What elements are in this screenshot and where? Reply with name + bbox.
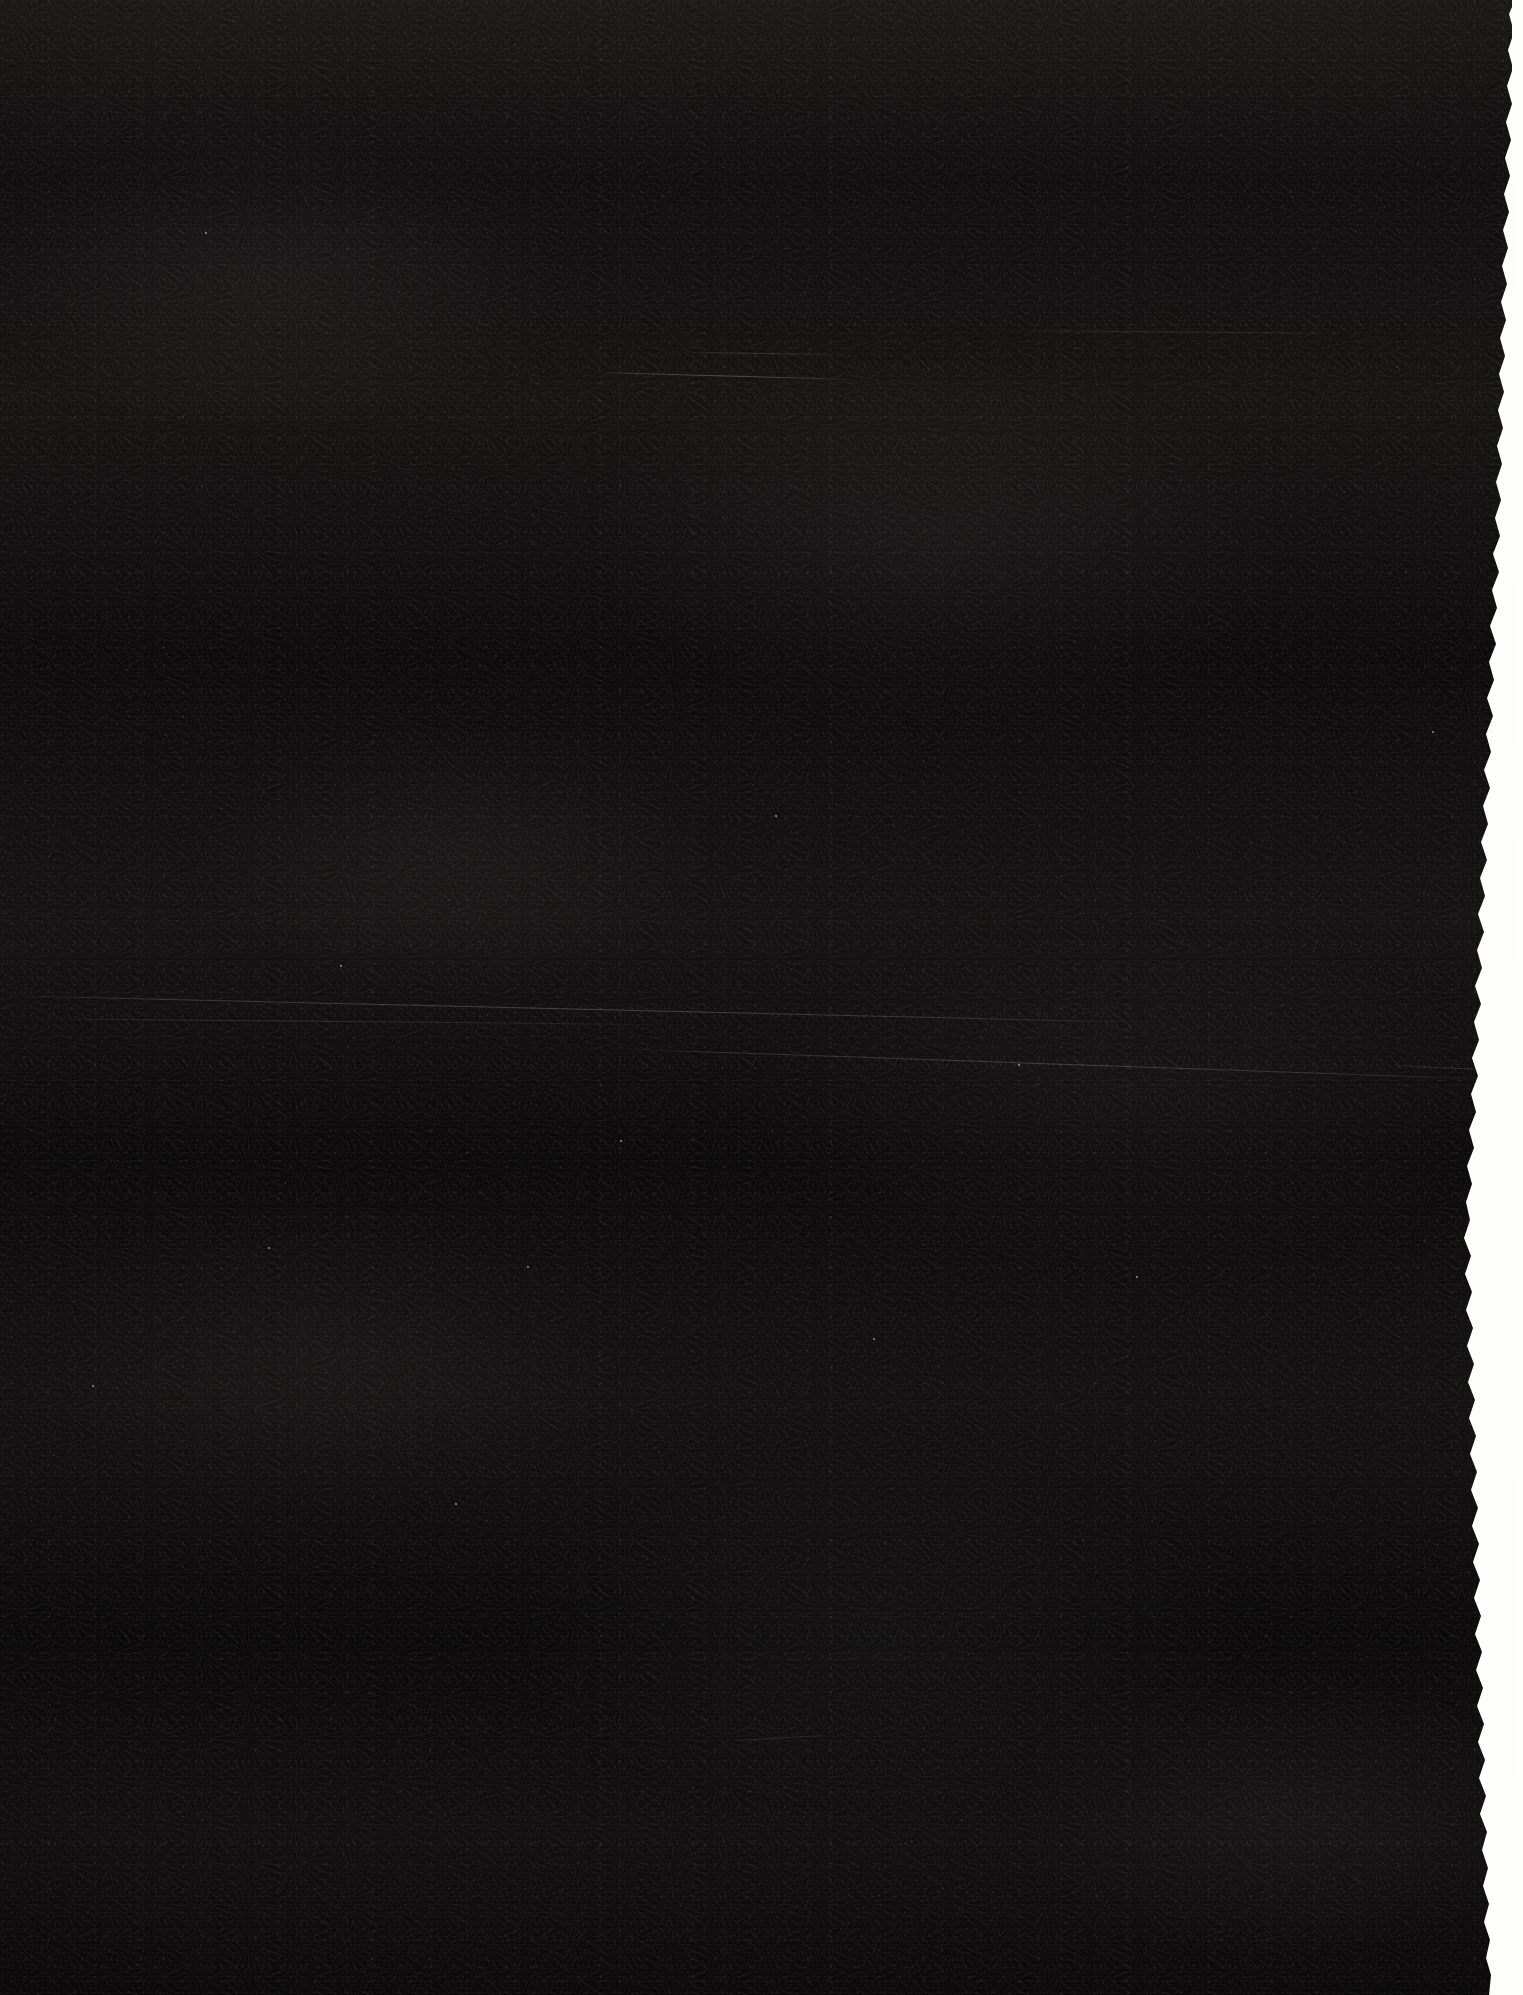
document-page (0, 0, 1512, 1995)
vignette (0, 0, 1512, 1995)
scanned-page-canvas (0, 0, 1523, 1995)
